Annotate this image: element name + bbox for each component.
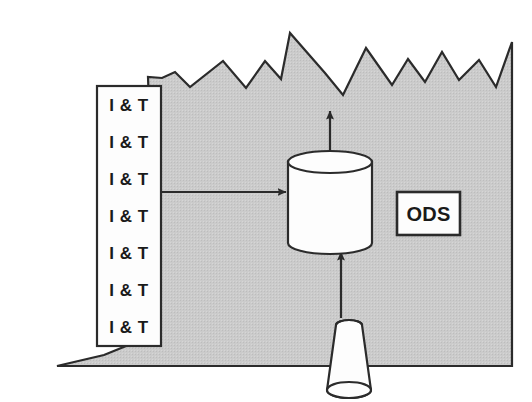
data-feed-cone-bottom-rim xyxy=(327,382,371,398)
ods-label-text: ODS xyxy=(407,203,451,225)
it-row-label: I & T xyxy=(109,244,148,263)
diagram-svg: I & T I & T I & T I & T I & T I & T I & … xyxy=(0,0,532,402)
diagram-canvas: I & T I & T I & T I & T I & T I & T I & … xyxy=(0,0,532,402)
it-row-label: I & T xyxy=(109,281,148,300)
it-row-label: I & T xyxy=(109,133,148,152)
it-row-label: I & T xyxy=(109,170,148,189)
it-row-label: I & T xyxy=(109,96,148,115)
it-row-label: I & T xyxy=(109,207,148,226)
it-row-label: I & T xyxy=(109,318,148,337)
ods-datastore-cylinder-body xyxy=(288,162,372,254)
ods-datastore-cylinder-top xyxy=(288,151,372,173)
